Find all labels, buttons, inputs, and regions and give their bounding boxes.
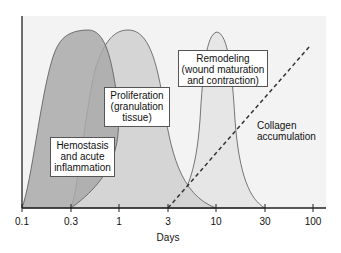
hemostasis-label-line: inflammation: [53, 162, 112, 173]
hemostasis-label: Hemostasis and acute inflammation: [50, 137, 115, 177]
x-tick-label: 0.3: [64, 216, 78, 227]
hemostasis-label-line: and acute: [53, 151, 112, 162]
x-tick-label: 30: [259, 216, 271, 227]
collagen-label-line: accumulation: [257, 131, 316, 142]
remodeling-label-line: Remodeling: [181, 53, 265, 64]
proliferation-label-line: (granulation: [107, 101, 167, 112]
proliferation-label-line: tissue): [107, 112, 167, 123]
remodeling-label-line: (wound maturation: [181, 64, 265, 75]
collagen-label: Collagen accumulation: [257, 120, 316, 142]
x-tick-label: 0.1: [15, 216, 29, 227]
remodeling-label: Remodeling (wound maturation and contrac…: [178, 50, 268, 87]
proliferation-label: Proliferation (granulation tissue): [104, 87, 170, 127]
x-tick-label: 1: [116, 216, 122, 227]
x-axis-title: Days: [157, 232, 180, 243]
proliferation-label-line: Proliferation: [107, 90, 167, 101]
x-tick-label: 3: [165, 216, 171, 227]
x-tick-label: 10: [210, 216, 222, 227]
x-tick-label: 100: [305, 216, 322, 227]
hemostasis-label-line: Hemostasis: [53, 140, 112, 151]
remodeling-label-line: and contraction): [181, 75, 265, 86]
collagen-label-line: Collagen: [257, 120, 316, 131]
